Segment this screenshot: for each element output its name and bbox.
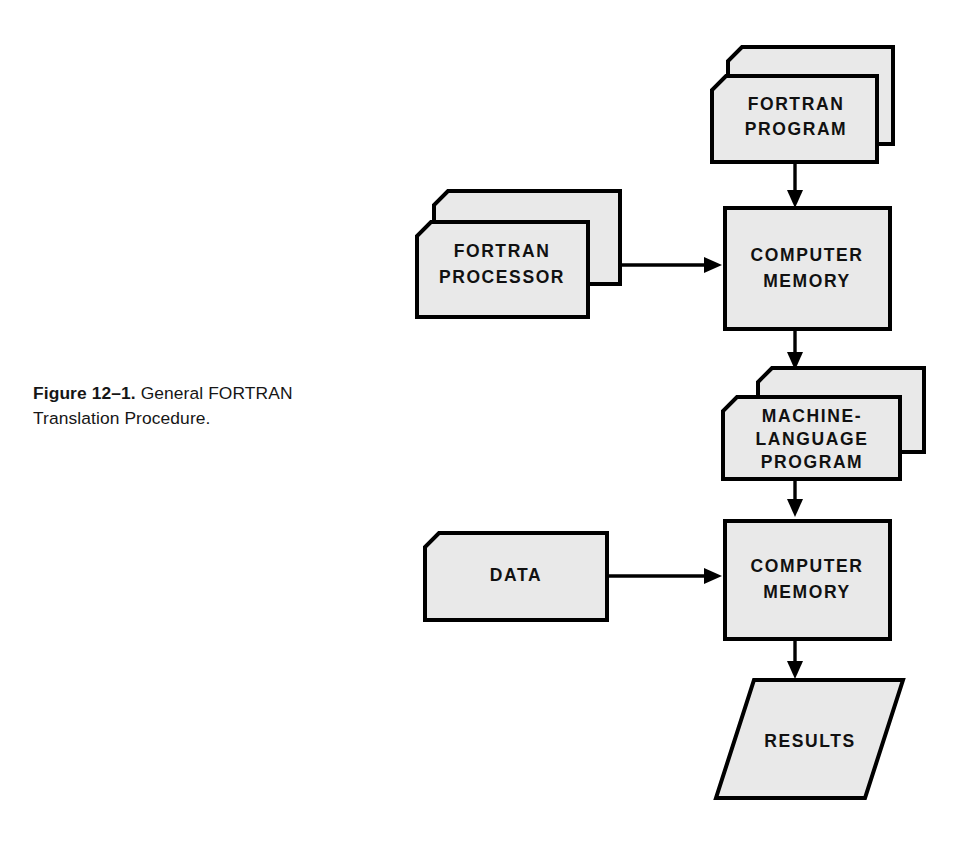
computer-memory-2-box [725, 521, 890, 639]
node-results: RESULTS [716, 680, 903, 798]
computer-memory-1-label-line2: MEMORY [763, 271, 851, 291]
connector-fortran-processor-to-memory-1 [620, 257, 722, 273]
fortran-processor-label-line2: PROCESSOR [439, 267, 565, 287]
data-label: DATA [490, 565, 542, 585]
connector-fortran-program-to-memory-1 [787, 162, 803, 208]
computer-memory-1-label-line1: COMPUTER [751, 245, 864, 265]
connector-machine-language-to-memory-2 [787, 479, 803, 517]
machine-language-label-line1: MACHINE- [762, 406, 862, 426]
node-computer-memory-2: COMPUTER MEMORY [725, 521, 890, 639]
machine-language-label-line2: LANGUAGE [756, 429, 869, 449]
computer-memory-1-box [725, 208, 890, 329]
figure-container: FORTRAN PROGRAM FORTRAN PROCESSOR COMPUT… [0, 0, 977, 853]
fortran-processor-label-line1: FORTRAN [454, 241, 551, 261]
node-machine-language-program: MACHINE- LANGUAGE PROGRAM [723, 368, 924, 479]
connector-memory-1-to-machine-language [787, 329, 803, 370]
machine-language-label-line3: PROGRAM [761, 452, 864, 472]
node-data: DATA [425, 533, 607, 620]
connector-memory-2-to-results [787, 639, 803, 679]
node-computer-memory-1: COMPUTER MEMORY [725, 208, 890, 329]
figure-caption-number: Figure 12–1. [33, 383, 136, 403]
fortran-program-label-line2: PROGRAM [745, 119, 848, 139]
node-fortran-program: FORTRAN PROGRAM [712, 47, 893, 162]
node-fortran-processor: FORTRAN PROCESSOR [417, 191, 620, 317]
computer-memory-2-label-line1: COMPUTER [751, 556, 864, 576]
computer-memory-2-label-line2: MEMORY [763, 582, 851, 602]
results-label: RESULTS [764, 731, 856, 751]
fortran-program-label-line1: FORTRAN [748, 94, 845, 114]
figure-caption: Figure 12–1. General FORTRAN Translation… [33, 381, 333, 431]
connector-data-to-memory-2 [607, 568, 722, 584]
